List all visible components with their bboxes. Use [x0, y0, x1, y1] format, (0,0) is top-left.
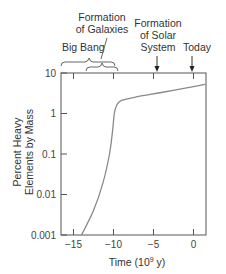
y-tick-label: 0.1 [42, 149, 56, 160]
arrow-solar-icon [155, 66, 160, 72]
brace-big-bang [61, 58, 115, 66]
top-ticks [74, 73, 194, 79]
y-tick-label: 10 [45, 68, 57, 79]
y-tick-label: 0.001 [31, 230, 56, 241]
y-tick-label: 0.01 [37, 189, 57, 200]
y-axis-title-line2: Elements by Mass [23, 109, 35, 195]
x-tick-label: −5 [148, 239, 160, 250]
x-tick-label: 0 [191, 239, 197, 250]
x-axis: −15−10−50 [65, 229, 197, 250]
x-axis-title: Time (109 y) [109, 256, 166, 268]
annotation-solar-line2: of Solar [140, 29, 177, 41]
annotation-solar-line1: Formation [134, 17, 181, 29]
x-tick-label: −10 [105, 239, 122, 250]
brace-galaxies [86, 63, 118, 71]
annotation-today: Today [183, 41, 212, 53]
annotation-big-bang: Big Bang [62, 41, 105, 53]
annotation-galaxies-line2: of Galaxies [76, 23, 129, 35]
arrow-today-icon [190, 66, 195, 72]
data-line [82, 84, 206, 235]
y-axis-title-line1: Percent Heavy [11, 117, 23, 187]
annotation-galaxies-line1: Formation [78, 11, 125, 23]
annotation-solar-line3: System [140, 41, 175, 53]
chart: 1010.10.010.001 −15−10−50 Percent Heavy … [0, 0, 226, 274]
y-tick-label: 1 [50, 108, 56, 119]
x-tick-label: −15 [65, 239, 82, 250]
y-axis: 1010.10.010.001 [31, 68, 67, 241]
